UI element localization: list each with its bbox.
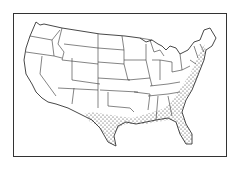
- us-map: [0, 0, 238, 169]
- stippled-coastal-plain: [84, 44, 206, 146]
